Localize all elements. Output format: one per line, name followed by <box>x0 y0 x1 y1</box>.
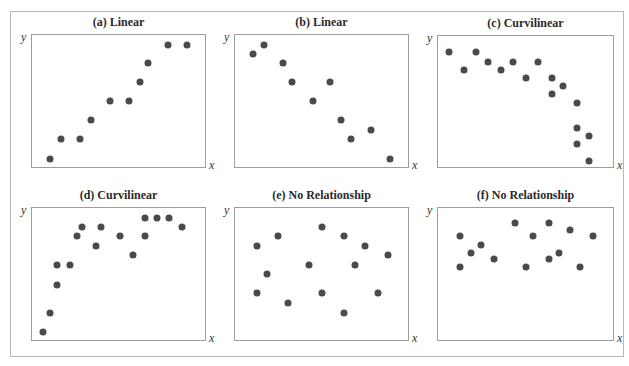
data-point <box>253 242 260 249</box>
data-point <box>457 233 464 240</box>
data-point <box>57 135 64 142</box>
x-axis-label: x <box>412 158 417 173</box>
data-point <box>264 271 271 278</box>
data-point <box>40 328 47 335</box>
data-point <box>183 41 190 48</box>
data-point <box>566 226 573 233</box>
data-point <box>73 233 80 240</box>
data-point <box>573 125 580 132</box>
data-point <box>87 116 94 123</box>
x-axis-label: x <box>617 158 622 173</box>
data-point <box>274 233 281 240</box>
data-point <box>490 256 497 263</box>
data-point <box>545 256 552 263</box>
data-point <box>280 60 287 67</box>
plot-area <box>31 34 206 168</box>
data-point <box>559 82 566 89</box>
data-point <box>98 224 105 231</box>
y-axis-label: y <box>224 203 229 218</box>
data-point <box>141 214 148 221</box>
data-point <box>337 116 344 123</box>
data-point <box>511 220 518 227</box>
data-point <box>457 264 464 271</box>
data-point <box>178 224 185 231</box>
data-point <box>497 66 504 73</box>
panel-title: (c) Curvilinear <box>437 16 614 31</box>
data-point <box>129 252 136 259</box>
data-point <box>586 133 593 140</box>
data-point <box>460 66 467 73</box>
data-point <box>66 261 73 268</box>
panel-title: (f) No Relationship <box>437 188 614 203</box>
panel-title: (d) Curvilinear <box>31 188 206 203</box>
data-point <box>78 224 85 231</box>
data-point <box>348 135 355 142</box>
data-point <box>522 264 529 271</box>
data-point <box>54 261 61 268</box>
data-point <box>250 51 257 58</box>
data-point <box>54 281 61 288</box>
data-point <box>556 249 563 256</box>
data-point <box>136 79 143 86</box>
data-point <box>589 233 596 240</box>
data-point <box>367 127 374 134</box>
data-point <box>577 264 584 271</box>
data-point <box>154 214 161 221</box>
data-point <box>385 252 392 259</box>
data-point <box>510 58 517 65</box>
data-point <box>586 158 593 165</box>
data-point <box>529 233 536 240</box>
y-axis-label: y <box>427 31 432 46</box>
data-point <box>362 242 369 249</box>
data-point <box>253 289 260 296</box>
data-point <box>92 242 99 249</box>
data-point <box>341 309 348 316</box>
data-point <box>478 241 485 248</box>
plot-area <box>437 35 614 168</box>
y-axis-label: y <box>21 30 26 45</box>
plot-area <box>437 207 614 341</box>
data-point <box>351 261 358 268</box>
data-point <box>341 233 348 240</box>
panel-title: (b) Linear <box>234 15 409 30</box>
data-point <box>309 98 316 105</box>
data-point <box>47 155 54 162</box>
x-axis-label: x <box>412 331 417 346</box>
x-axis-label: x <box>617 331 622 346</box>
data-point <box>327 79 334 86</box>
data-point <box>485 58 492 65</box>
data-point <box>545 220 552 227</box>
data-point <box>126 98 133 105</box>
data-point <box>141 233 148 240</box>
data-point <box>573 141 580 148</box>
data-point <box>106 98 113 105</box>
data-point <box>446 49 453 56</box>
data-point <box>573 99 580 106</box>
data-point <box>522 74 529 81</box>
data-point <box>145 60 152 67</box>
data-point <box>306 261 313 268</box>
data-point <box>534 58 541 65</box>
y-axis-label: y <box>21 203 26 218</box>
y-axis-label: y <box>427 203 432 218</box>
data-point <box>472 49 479 56</box>
data-point <box>318 289 325 296</box>
panel-title: (e) No Relationship <box>234 188 409 203</box>
data-point <box>318 224 325 231</box>
data-point <box>164 41 171 48</box>
data-point <box>285 300 292 307</box>
data-point <box>166 214 173 221</box>
data-point <box>386 155 393 162</box>
x-axis-label: x <box>209 331 214 346</box>
data-point <box>47 309 54 316</box>
data-point <box>467 249 474 256</box>
data-point <box>549 74 556 81</box>
data-point <box>77 135 84 142</box>
data-point <box>260 41 267 48</box>
data-point <box>549 90 556 97</box>
panel-title: (a) Linear <box>31 15 206 30</box>
x-axis-label: x <box>209 158 214 173</box>
data-point <box>374 289 381 296</box>
data-point <box>117 233 124 240</box>
plot-area <box>234 34 409 168</box>
